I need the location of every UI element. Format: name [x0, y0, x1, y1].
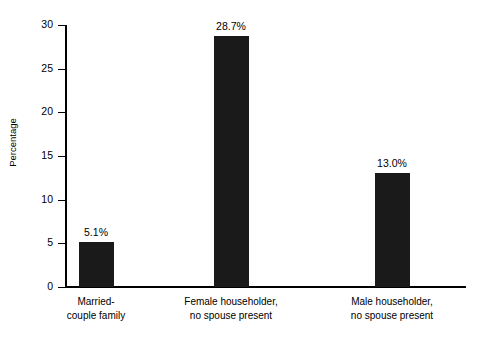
category-label-line: Male householder,: [322, 295, 462, 309]
y-axis-tick: 20: [58, 112, 65, 113]
y-axis-tick-label: 10: [41, 193, 53, 206]
y-axis-line: [65, 25, 67, 288]
bar-chart-figure: Percentage 051015202530 5.1%28.7%13.0% M…: [0, 0, 486, 343]
bar: 5.1%: [79, 242, 114, 287]
x-axis-category-label: Male householder,no spouse present: [322, 295, 462, 323]
y-axis-tick: 5: [58, 243, 65, 244]
y-axis-tick-label: 0: [47, 280, 53, 293]
y-axis-tick-label: 25: [41, 62, 53, 75]
bar: 28.7%: [214, 36, 249, 287]
bar: 13.0%: [375, 173, 410, 287]
category-label-line: couple family: [26, 309, 166, 323]
category-label-line: Married-: [26, 295, 166, 309]
y-axis-tick: 15: [58, 156, 65, 157]
bar-value-label: 5.1%: [84, 226, 108, 238]
bar-value-label: 13.0%: [377, 157, 407, 169]
category-label-line: no spouse present: [161, 309, 301, 323]
y-axis-tick: 25: [58, 69, 65, 70]
category-label-line: no spouse present: [322, 309, 462, 323]
y-axis-tick: 10: [58, 200, 65, 201]
category-label-line: Female householder,: [161, 295, 301, 309]
y-axis-tick: 0: [58, 287, 65, 288]
y-axis-tick-label: 20: [41, 105, 53, 118]
x-axis-category-label: Married-couple family: [26, 295, 166, 323]
x-axis-category-label: Female householder,no spouse present: [161, 295, 301, 323]
bar-value-label: 28.7%: [216, 20, 246, 32]
y-axis-tick: 30: [58, 25, 65, 26]
y-axis-tick-label: 5: [47, 236, 53, 249]
y-axis-tick-label: 30: [41, 18, 53, 31]
y-axis-title: Percentage: [7, 103, 18, 183]
y-axis-tick-label: 15: [41, 149, 53, 162]
